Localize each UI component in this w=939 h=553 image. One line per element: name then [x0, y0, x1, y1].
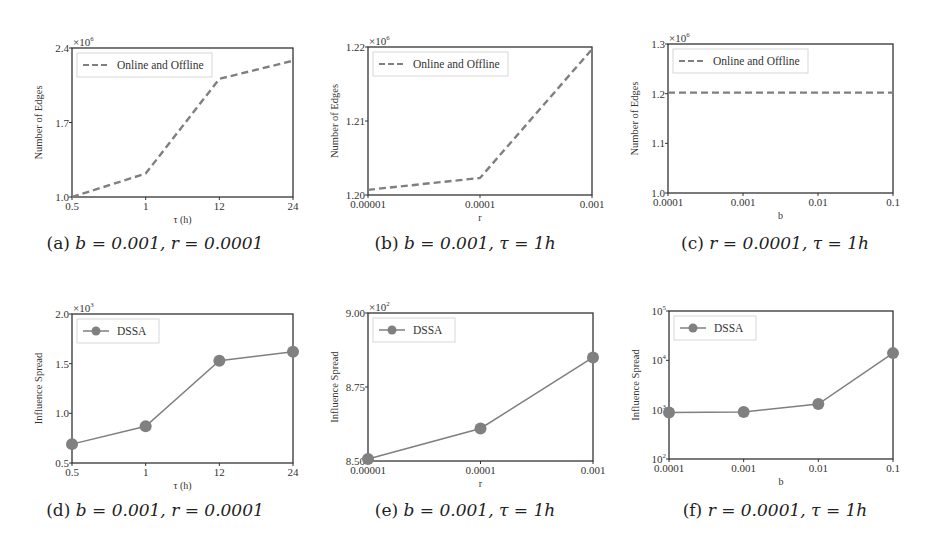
line-chart-c: 1.01.11.21.30.00010.0010.010.1×106bNumbe…	[620, 0, 930, 220]
data-point	[738, 406, 750, 418]
caption-text: b = 0.001, τ = 1h	[404, 233, 556, 253]
x-tick-label: 0.0001	[465, 198, 495, 210]
y-tick-label: 1.7	[55, 117, 69, 129]
caption-text: r = 0.0001, τ = 1h	[709, 233, 869, 253]
data-point	[66, 438, 78, 450]
caption-f: (f) r = 0.0001, τ = 1h	[620, 500, 930, 520]
legend-marker-icon	[388, 326, 397, 335]
legend: Online and Offline	[673, 49, 808, 73]
x-tick-label: 0.0001	[465, 464, 495, 476]
line-chart-d: 0.51.01.52.00.511224×103τ (h)Influence S…	[0, 270, 310, 490]
legend-label: DSSA	[117, 325, 147, 337]
legend-label: DSSA	[413, 324, 443, 336]
x-tick-label: 24	[288, 466, 300, 478]
subplot-a: 1.01.72.40.511224×106τ (h)Number of Edge…	[0, 0, 310, 276]
legend-label: DSSA	[714, 322, 744, 334]
data-point	[663, 406, 675, 418]
x-tick-label: 0.00001	[350, 198, 386, 210]
data-line	[368, 357, 593, 459]
x-tick-label: 0.01	[808, 196, 827, 208]
y-tick-label: 104	[652, 353, 667, 366]
y-tick-label: 1.2	[651, 88, 665, 100]
x-tick-label: 0.001	[731, 462, 756, 474]
line-chart-f: 1021031041050.00010.0010.010.1bInfluence…	[620, 270, 930, 490]
y-tick-label: 2.0	[55, 308, 69, 320]
y-multiplier-label: ×106	[73, 35, 94, 48]
legend: DSSA	[77, 319, 159, 343]
legend: DSSA	[674, 316, 756, 340]
subplot-e: 8.508.759.000.000010.00010.001×102rInflu…	[310, 270, 620, 546]
y-tick-label: 1.21	[346, 115, 365, 127]
x-axis-label: b	[779, 476, 784, 487]
caption-label: (a)	[47, 233, 70, 253]
subplot-c: 1.01.11.21.30.00010.0010.010.1×106bNumbe…	[620, 0, 930, 276]
y-axis-label: Influence Spread	[630, 349, 641, 421]
data-point	[812, 398, 824, 410]
x-tick-label: 12	[214, 200, 225, 212]
subplot-b: 1.201.211.220.000010.00010.001×106rNumbe…	[310, 0, 620, 276]
x-tick-label: 0.00001	[350, 464, 386, 476]
caption-d: (d) b = 0.001, r = 0.0001	[0, 500, 310, 520]
legend-label: Online and Offline	[117, 59, 204, 71]
y-tick-label: 1.0	[55, 407, 69, 419]
line-chart-a: 1.01.72.40.511224×106τ (h)Number of Edge…	[0, 0, 310, 220]
y-multiplier-label: ×106	[369, 34, 390, 47]
x-axis-label: r	[479, 478, 483, 489]
data-point	[287, 346, 299, 358]
x-tick-label: 24	[288, 200, 300, 212]
line-chart-e: 8.508.759.000.000010.00010.001×102rInflu…	[310, 270, 620, 490]
x-axis-label: τ (h)	[173, 214, 191, 226]
legend-label: Online and Offline	[713, 55, 800, 67]
y-axis-label: Number of Edges	[329, 84, 340, 158]
x-tick-label: 0.1	[886, 462, 900, 474]
caption-label: (d)	[46, 500, 70, 520]
x-axis-label: b	[778, 210, 783, 221]
x-tick-label: 1	[143, 466, 149, 478]
x-tick-label: 0.001	[731, 196, 756, 208]
y-tick-label: 1.3	[651, 38, 665, 50]
data-point	[362, 453, 374, 465]
data-line	[72, 352, 293, 444]
x-tick-label: 0.1	[886, 196, 900, 208]
x-tick-label: 0.5	[65, 200, 79, 212]
x-tick-label: 0.001	[581, 464, 606, 476]
y-axis-label: Number of Edges	[629, 81, 640, 155]
caption-text: b = 0.001, τ = 1h	[404, 500, 556, 520]
legend: Online and Offline	[77, 53, 212, 77]
caption-label: (c)	[681, 233, 704, 253]
x-tick-label: 0.001	[580, 198, 605, 210]
y-tick-label: 2.4	[55, 42, 69, 54]
x-axis-label: τ (h)	[173, 480, 191, 492]
y-tick-label: 9.00	[346, 307, 366, 319]
data-line	[669, 353, 893, 412]
data-point	[587, 351, 599, 363]
caption-e: (e) b = 0.001, τ = 1h	[310, 500, 620, 520]
caption-label: (b)	[374, 233, 398, 253]
y-tick-label: 8.75	[346, 381, 366, 393]
caption-text: b = 0.001, r = 0.0001	[75, 233, 263, 253]
legend-marker-icon	[92, 327, 101, 336]
y-axis-label: Number of Edges	[33, 85, 44, 159]
subplot-f: 1021031041050.00010.0010.010.1bInfluence…	[620, 270, 930, 546]
legend: DSSA	[373, 318, 455, 342]
y-multiplier-label: ×103	[73, 301, 94, 314]
line-chart-b: 1.201.211.220.000010.00010.001×106rNumbe…	[310, 0, 620, 220]
data-point	[213, 355, 225, 367]
caption-text: b = 0.001, r = 0.0001	[76, 500, 264, 520]
data-point	[475, 422, 487, 434]
x-tick-label: 0.0001	[653, 196, 683, 208]
legend-label: Online and Offline	[413, 58, 500, 70]
y-tick-label: 1.22	[346, 41, 365, 53]
legend: Online and Offline	[373, 52, 508, 76]
caption-label: (f)	[683, 500, 703, 520]
y-multiplier-label: ×102	[369, 300, 390, 313]
caption-label: (e)	[375, 500, 398, 520]
data-line	[72, 61, 293, 197]
y-axis-label: Influence Spread	[33, 352, 44, 424]
caption-b: (b) b = 0.001, τ = 1h	[310, 233, 620, 253]
caption-text: r = 0.0001, τ = 1h	[708, 500, 868, 520]
x-tick-label: 0.01	[809, 462, 828, 474]
y-multiplier-label: ×106	[669, 31, 690, 44]
caption-a: (a) b = 0.001, r = 0.0001	[0, 233, 310, 253]
x-tick-label: 0.5	[65, 466, 79, 478]
